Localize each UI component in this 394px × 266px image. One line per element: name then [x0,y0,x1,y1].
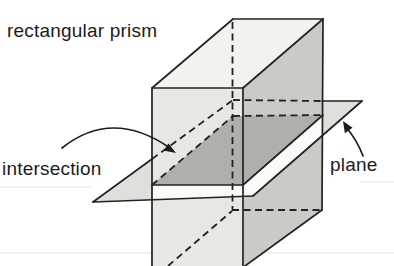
plane-arrow-curve [346,127,363,156]
plane-arrowhead [343,121,353,133]
plane-arrow [343,121,363,156]
label-rectangular-prism: rectangular prism [7,21,157,40]
diagram-canvas: rectangular prism intersection plane [0,0,394,266]
label-intersection: intersection [2,159,102,178]
label-plane: plane [330,155,378,174]
